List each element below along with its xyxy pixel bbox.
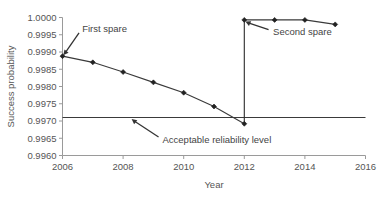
annotation-arrowhead (63, 50, 68, 56)
x-tick-label: 2012 (234, 161, 255, 172)
annotation-label: Acceptable reliability level (162, 134, 271, 145)
y-tick-label: 0.9960 (27, 150, 56, 161)
success-probability-line-chart: 0.99600.99650.99700.99750.99800.99850.99… (0, 0, 391, 203)
x-axis-ticks: 200620082010201220142016 (52, 156, 376, 172)
y-tick-label: 1.0000 (27, 12, 56, 23)
y-tick-label: 0.9990 (27, 46, 56, 57)
data-point-marker (212, 104, 217, 109)
data-point-marker (272, 17, 277, 22)
chart-container: 0.99600.99650.99700.99750.99800.99850.99… (0, 0, 391, 203)
annotations: First spareSecond spareAcceptable reliab… (63, 21, 331, 145)
y-axis-ticks: 0.99600.99650.99700.99750.99800.99850.99… (27, 12, 62, 161)
x-tick-label: 2010 (173, 161, 194, 172)
y-tick-label: 0.9995 (27, 29, 56, 40)
x-tick-label: 2008 (113, 161, 134, 172)
series-second-spare-line (244, 20, 335, 24)
data-point-marker (151, 80, 156, 85)
series-first-spare-markers (60, 54, 247, 127)
annotation-label: Second spare (273, 26, 332, 37)
x-axis-title: Year (204, 179, 223, 190)
annotation-arrow (65, 33, 79, 53)
data-point-marker (242, 121, 247, 126)
data-point-marker (181, 90, 186, 95)
data-point-marker (90, 60, 95, 65)
x-tick-label: 2014 (294, 161, 315, 172)
annotation-arrow (248, 23, 268, 30)
x-tick-label: 2006 (52, 161, 73, 172)
x-tick-label: 2016 (355, 161, 376, 172)
annotation-label: First spare (82, 23, 127, 34)
y-tick-label: 0.9985 (27, 64, 56, 75)
y-tick-label: 0.9980 (27, 81, 56, 92)
data-point-marker (333, 22, 338, 27)
y-axis-title: Success probability (5, 45, 16, 127)
data-point-marker (302, 17, 307, 22)
series-first-spare-line (63, 56, 245, 124)
y-tick-label: 0.9965 (27, 133, 56, 144)
y-tick-label: 0.9970 (27, 115, 56, 126)
data-point-marker (121, 70, 126, 75)
annotation-arrow (134, 121, 158, 137)
annotation-arrowhead (132, 119, 138, 124)
y-tick-label: 0.9975 (27, 98, 56, 109)
